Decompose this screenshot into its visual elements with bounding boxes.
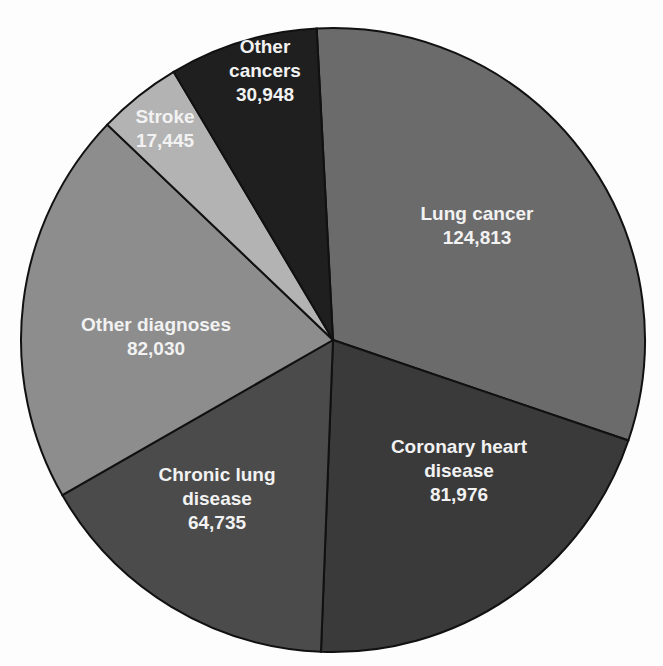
slice-label-other-cancers: Othercancers30,948 bbox=[229, 36, 301, 105]
pie-chart-svg: Lung cancer124,813Coronary heartdisease8… bbox=[0, 0, 663, 666]
pie-chart: Lung cancer124,813Coronary heartdisease8… bbox=[0, 0, 663, 666]
